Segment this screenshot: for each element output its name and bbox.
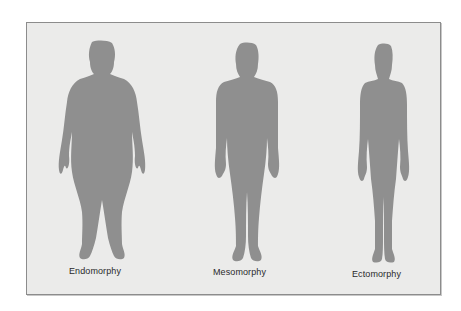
- label-ectomorphy: Ectomorphy: [352, 269, 401, 279]
- label-endomorphy: Endomorphy: [69, 266, 121, 276]
- label-mesomorphy: Mesomorphy: [213, 267, 266, 277]
- mesomorph-silhouette: [212, 42, 282, 262]
- endomorph-silhouette: [52, 40, 146, 260]
- ectomorph-silhouette: [356, 43, 412, 263]
